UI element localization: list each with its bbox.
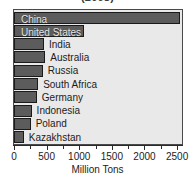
x-tick-label: 1000 — [68, 151, 90, 162]
x-tick-minor — [128, 146, 129, 149]
x-tick-label: 2500 — [166, 151, 188, 162]
x-tick-label: 0 — [11, 151, 17, 162]
x-tick — [177, 146, 178, 150]
bar-category-label: Poland — [36, 117, 67, 130]
x-tick — [47, 146, 48, 150]
x-tick-minor — [30, 146, 31, 149]
bar-row: South Africa — [14, 78, 97, 91]
bar — [14, 78, 38, 90]
coal-production-bar-chart: (2008) ChinaUnited StatesIndiaAustraliaR… — [0, 0, 195, 193]
x-tick-label: 1500 — [101, 151, 123, 162]
bar — [14, 51, 45, 63]
x-tick — [79, 146, 80, 150]
x-axis-line — [13, 145, 183, 146]
bar: United States — [14, 25, 84, 37]
bar — [14, 38, 44, 50]
bar-row: Kazakhstan — [14, 131, 81, 144]
bar — [14, 105, 32, 117]
bar-category-label: Russia — [48, 64, 79, 77]
bar-row: Poland — [14, 117, 67, 130]
chart-title: (2008) — [0, 0, 195, 3]
bar-row: Indonesia — [14, 104, 80, 117]
bar: China — [14, 12, 180, 24]
plot-area: ChinaUnited StatesIndiaAustraliaRussiaSo… — [13, 9, 183, 145]
bar-category-label: India — [49, 38, 71, 51]
x-tick-minor — [63, 146, 64, 149]
bar — [14, 131, 24, 143]
bar-row: Russia — [14, 64, 78, 77]
bar — [14, 91, 37, 103]
bar-category-label: Indonesia — [37, 104, 80, 117]
bar-category-label: Germany — [42, 91, 83, 104]
bar — [14, 65, 43, 77]
x-tick — [14, 146, 15, 150]
x-tick-minor — [96, 146, 97, 149]
bar-category-label: Kazakhstan — [29, 131, 81, 144]
bar-row: Germany — [14, 91, 83, 104]
x-axis-label: Million Tons — [0, 164, 195, 175]
bar — [14, 118, 31, 130]
x-tick-minor — [161, 146, 162, 149]
bar-category-label: Australia — [50, 51, 89, 64]
x-tick — [144, 146, 145, 150]
bar-row: China — [14, 11, 180, 24]
x-tick-label: 500 — [38, 151, 55, 162]
bar-category-label: South Africa — [43, 78, 97, 91]
x-tick — [112, 146, 113, 150]
bar-row: United States — [14, 24, 84, 37]
bar-row: India — [14, 38, 71, 51]
x-tick-label: 2000 — [133, 151, 155, 162]
bar-row: Australia — [14, 51, 89, 64]
